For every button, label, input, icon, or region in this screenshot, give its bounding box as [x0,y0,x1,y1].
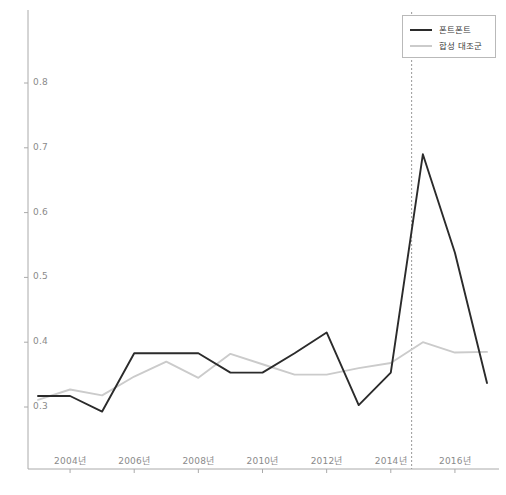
axis-layer [24,10,499,473]
y-axis-tick-label: 0.6 [33,207,48,217]
chart-legend: 폰트폰트 합성 대조군 [402,15,496,58]
legend-item-series-1: 폰트폰트 [410,22,488,37]
x-axis-tick-label: 2008년 [182,454,214,467]
series-line-2 [38,342,487,400]
y-axis-tick-label: 0.3 [33,401,48,411]
x-axis-tick-label: 2014년 [375,454,407,467]
y-axis-tick-label: 0.4 [33,336,48,346]
legend-swatch-series-2 [410,45,432,47]
y-axis-tick-label: 0.7 [33,142,48,152]
series-line-1 [38,154,487,411]
x-axis-tick-label: 2010년 [247,454,279,467]
legend-item-series-2: 합성 대조군 [410,38,488,53]
y-axis-tick-label: 0.5 [33,271,48,281]
x-axis-tick-label: 2004년 [54,454,86,467]
x-axis-tick-label: 2012년 [311,454,343,467]
line-chart-plot [0,0,506,495]
legend-label-series-2: 합성 대조군 [439,41,482,51]
y-axis-tick-label: 0.8 [33,77,48,87]
series-layer [38,154,487,411]
chart-container: 0.30.40.50.60.70.8 2004년2006년2008년2010년2… [0,0,506,495]
x-axis-tick-label: 2016년 [439,454,471,467]
legend-label-series-1: 폰트폰트 [439,25,471,35]
legend-swatch-series-1 [410,29,432,31]
x-axis-tick-label: 2006년 [118,454,150,467]
